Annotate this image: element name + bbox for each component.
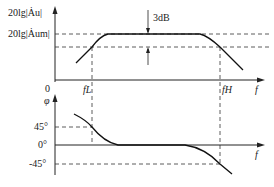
phase-x-arrow-icon bbox=[257, 143, 265, 148]
3db-up-arrow-icon bbox=[146, 47, 150, 53]
tick-0: 0° bbox=[38, 139, 47, 150]
3db-down-arrow-icon bbox=[146, 28, 150, 34]
mag-x-label: f bbox=[255, 84, 259, 95]
mag-y-label: 20lg|Ȧu| bbox=[8, 7, 42, 18]
3db-label: 3dB bbox=[153, 12, 170, 23]
origin-label: 0 bbox=[45, 83, 50, 94]
phase-x-label: f bbox=[255, 149, 259, 160]
magnitude-curve bbox=[76, 34, 243, 70]
fl-label: fL bbox=[83, 84, 92, 95]
mag-y-arrow-icon bbox=[53, 6, 58, 14]
mag-x-arrow-icon bbox=[257, 78, 265, 83]
phase-y-label: φ bbox=[44, 95, 50, 106]
tick-minus-45: -45° bbox=[29, 158, 46, 169]
phase-y-arrow-icon bbox=[53, 94, 58, 102]
fh-label: fH bbox=[222, 84, 233, 95]
frequency-response-diagram: 20lg|Ȧu| 20lg|Ȧum| 3dB 0 fL fH f φ 45° 0… bbox=[0, 0, 274, 187]
tick-45: 45° bbox=[34, 121, 48, 132]
phase-curve bbox=[74, 114, 232, 174]
mag-level-label: 20lg|Ȧum| bbox=[8, 28, 50, 39]
